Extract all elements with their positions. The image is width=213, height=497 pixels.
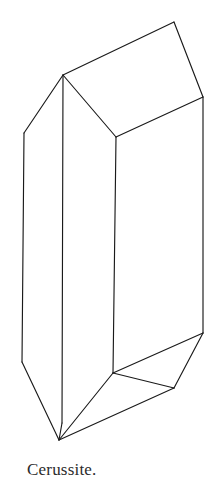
top-termination-face: [63, 22, 203, 137]
edge-front-left-vertical: [62, 75, 63, 423]
edge-front-center-to-top-apex: [63, 75, 116, 137]
left-shoulder-bevel: [24, 75, 63, 133]
edge-top-apex-to-peak: [63, 22, 174, 75]
edge-peak-to-top-right: [174, 22, 203, 97]
edge-left-outer-vertical: [22, 133, 24, 362]
cerussite-crystal-illustration: [0, 0, 213, 450]
bottom-termination-faces: [22, 333, 203, 440]
edge-bottom-right-to-bottom-apex: [59, 388, 174, 440]
figure-caption: Cerussite.: [27, 459, 207, 480]
edge-top-apex-to-left-shoulder: [24, 75, 63, 133]
edge-top-right-to-front-center: [116, 97, 203, 137]
edge-front-center-vertical: [113, 137, 116, 373]
edge-front-center-bottom-to-bottom-right: [113, 373, 174, 388]
figure-plate: Cerussite.: [0, 0, 213, 497]
edge-right-bend-to-front-center-bottom: [113, 333, 203, 373]
edge-right-bend-to-bottom-right: [174, 333, 203, 388]
prism-vertical-edges: [22, 75, 203, 423]
edge-front-center-bottom-to-bottom-apex: [59, 373, 113, 440]
edge-left-bend-to-bottom-apex: [22, 362, 59, 440]
